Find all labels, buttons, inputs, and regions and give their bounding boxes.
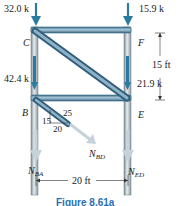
figure-caption: Figure 8.61a — [56, 198, 114, 206]
dimension-label-height: 15 ft — [152, 60, 171, 70]
load-label-right-column: 21.9 k — [137, 79, 162, 89]
dimension-label-width: 20 ft — [72, 176, 91, 186]
slope-label-horizontal: 20 — [53, 125, 62, 134]
reaction-label-nbd: NBD — [89, 149, 105, 159]
top-beam-cf — [31, 27, 131, 33]
slope-label-hypotenuse: 25 — [63, 109, 72, 118]
load-label-c: 32.0 k — [4, 4, 29, 14]
load-arrow-c — [31, 3, 41, 26]
load-label-left-column: 42.4 k — [4, 74, 29, 84]
middle-beam-be — [31, 95, 131, 101]
joint-label-c: C — [23, 38, 30, 48]
reaction-label-ned: NED — [128, 167, 144, 177]
diagonal-member-ce — [35, 31, 127, 98]
joint-label-f: F — [138, 38, 144, 48]
load-label-f: 15.9 k — [139, 4, 164, 14]
load-arrow-f — [123, 3, 133, 26]
slope-label-vertical: 15 — [42, 117, 51, 126]
joint-label-e: E — [138, 110, 144, 120]
reaction-arrow-nbd — [70, 124, 96, 144]
joint-label-b: B — [22, 108, 28, 118]
reaction-label-nba: NBA — [28, 166, 43, 176]
